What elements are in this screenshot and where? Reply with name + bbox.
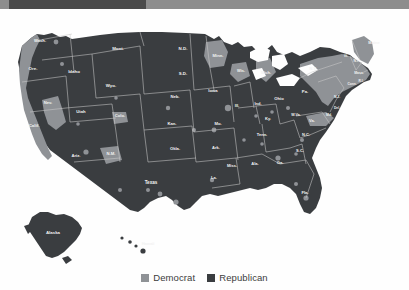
legend-swatch-republican [207, 274, 215, 282]
county-dem-memphis [242, 138, 246, 142]
map-svg: Wash.Ore.IdahoMont.Wyo.N.D.S.D.Minn.Wis.… [0, 12, 409, 264]
us-county-map[interactable]: Wash.Ore.IdahoMont.Wyo.N.D.S.D.Minn.Wis.… [0, 12, 409, 264]
county-dem-phoenix [83, 149, 88, 154]
legend-swatch-democrat [141, 274, 149, 282]
county-dem-columbia [294, 152, 298, 156]
county-dem-orlando [294, 182, 298, 186]
county-dem-seattle [54, 40, 59, 45]
election-map-page: Wash.Ore.IdahoMont.Wyo.N.D.S.D.Minn.Wis.… [0, 0, 409, 290]
county-dem-louisville [254, 114, 258, 118]
county-dem-saltlake [76, 122, 80, 126]
top-banner-fill [9, 0, 146, 9]
county-dem-jackson-wy [114, 96, 118, 100]
county-dem-chicago [225, 105, 231, 111]
legend-item-republican[interactable]: Republican [207, 273, 268, 283]
legend-item-democrat[interactable]: Democrat [141, 273, 195, 283]
county-dem-austin [158, 192, 163, 197]
county-dem-atlanta [275, 155, 280, 160]
county-dem-portland [60, 62, 64, 66]
legend-label-democrat: Democrat [153, 273, 195, 283]
county-dem-neworleans [210, 178, 214, 182]
top-banner-track [0, 0, 409, 9]
county-dem-elpaso [118, 188, 122, 192]
county-dem-raleigh [300, 138, 304, 142]
county-dem-cleveland [286, 106, 290, 110]
county-dem-omaha [166, 106, 170, 110]
county-dem-dallas [146, 188, 150, 192]
county-dem-houston [173, 199, 178, 204]
map-legend: Democrat Republican [0, 270, 409, 286]
legend-label-republican: Republican [219, 273, 268, 283]
county-dem-nashville [260, 142, 264, 146]
county-dem-columbus [270, 110, 274, 114]
